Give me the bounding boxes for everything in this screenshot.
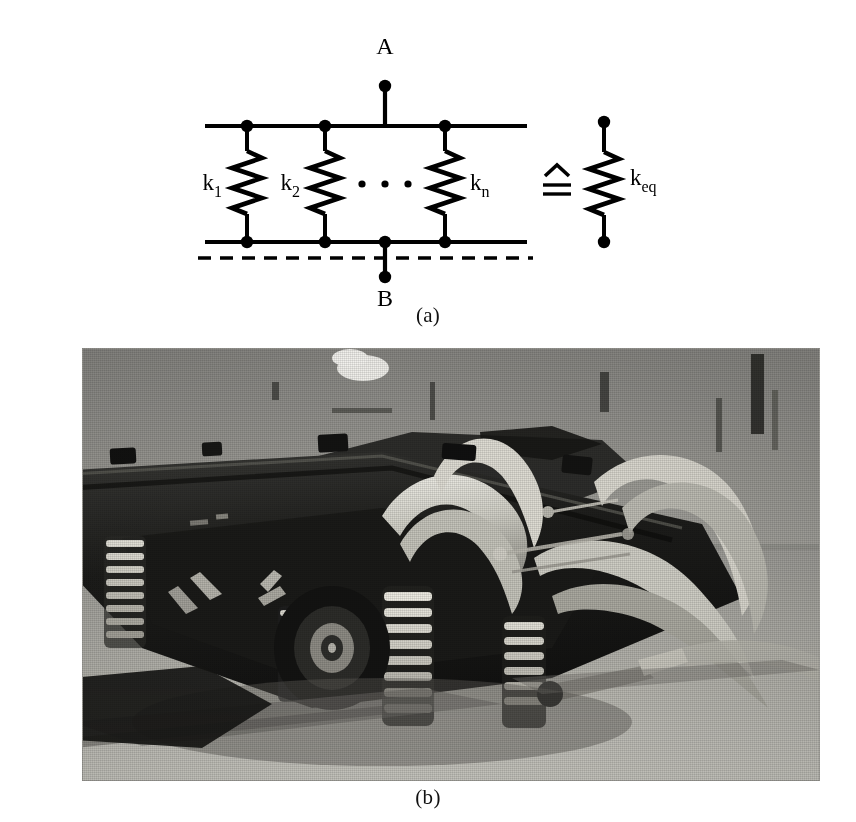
- spring-2-bottom-node-dot: [319, 236, 331, 248]
- spring-1-label-subscript: 1: [214, 183, 222, 200]
- background-post-right-1: [751, 354, 764, 434]
- spring-eq-bottom-node-dot: [598, 236, 610, 248]
- spring-1: [232, 120, 262, 248]
- terminal-a-node-dot: [379, 80, 391, 92]
- background-post-right-2: [716, 398, 722, 452]
- background-post-left: [430, 382, 435, 420]
- axle-cap: [328, 643, 336, 653]
- caption-b: (b): [0, 787, 856, 808]
- photo-highlight-blowout-2: [332, 349, 368, 367]
- photo-content: [82, 348, 820, 781]
- background-post-right-3: [772, 390, 778, 450]
- coil-spring-front-left: [104, 536, 146, 648]
- panel-a-schematic: A k1 k2: [0, 0, 856, 340]
- spring-eq-label-subscript: eq: [642, 178, 657, 196]
- background-mark-1: [272, 382, 279, 400]
- spring-n-top-node-dot: [439, 120, 451, 132]
- spring-1-label-base: k: [203, 170, 215, 195]
- spring-n-bottom-node-dot: [439, 236, 451, 248]
- terminal-b-node-dot: [379, 271, 391, 283]
- spring-n-label-base: k: [470, 170, 482, 195]
- spring-n: [430, 120, 460, 248]
- spring-2-top-node-dot: [319, 120, 331, 132]
- bottom-rail-center-node-dot: [379, 236, 391, 248]
- spring-2-label-subscript: 2: [292, 183, 300, 200]
- equivalence-caret: [545, 165, 569, 176]
- spring-1-label: k1: [203, 170, 223, 200]
- spring-2-label-base: k: [281, 170, 293, 195]
- spring-eq-coil: [589, 152, 619, 215]
- terminal-a-label: A: [376, 33, 394, 59]
- spring-n-label: kn: [470, 170, 490, 200]
- figure-root: A k1 k2: [0, 0, 856, 822]
- spring-2-coil: [310, 151, 340, 214]
- caption-a: (a): [0, 305, 856, 326]
- background-mark-2: [332, 408, 392, 413]
- spring-eq-label-base: k: [630, 165, 642, 190]
- ellipsis-dots: [358, 180, 411, 187]
- railway-bogie-photo: [82, 348, 820, 781]
- spring-1-bottom-node-dot: [241, 236, 253, 248]
- ellipsis-dot-3: [404, 180, 411, 187]
- equivalence-symbol: [543, 165, 571, 194]
- spring-eq: [589, 116, 619, 248]
- spring-1-top-node-dot: [241, 120, 253, 132]
- background-post-mid: [600, 372, 609, 412]
- spring-2: [310, 120, 340, 248]
- spring-n-label-subscript: n: [482, 183, 490, 200]
- spring-parallel-schematic: A k1 k2: [0, 0, 856, 340]
- panel-b-photograph: [82, 348, 820, 781]
- ellipsis-dot-2: [381, 180, 388, 187]
- spring-1-coil: [232, 151, 262, 214]
- spring-eq-label: keq: [630, 165, 657, 196]
- ellipsis-dot-1: [358, 180, 365, 187]
- spring-n-coil: [430, 151, 460, 214]
- spring-2-label: k2: [281, 170, 301, 200]
